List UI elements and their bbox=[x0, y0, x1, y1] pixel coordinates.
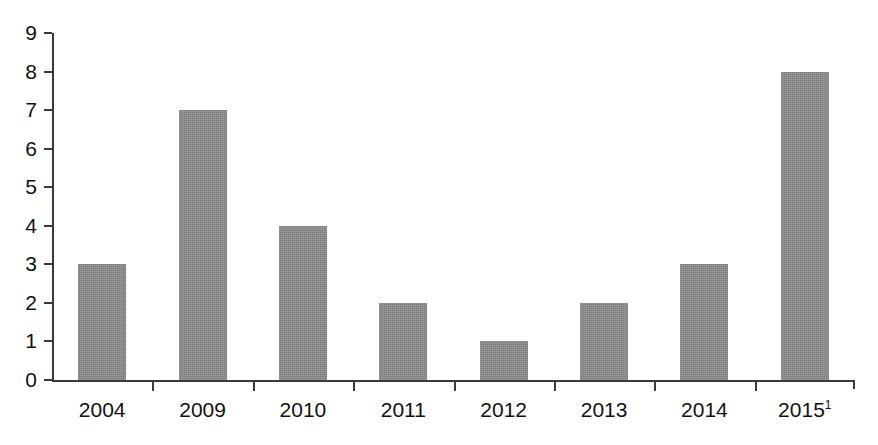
x-axis-tick-mark bbox=[353, 382, 355, 391]
y-axis-tick-label: 9 bbox=[13, 22, 37, 43]
y-axis-line bbox=[52, 33, 54, 381]
y-axis-tick-mark bbox=[44, 225, 52, 227]
y-axis-tick-label: 1 bbox=[13, 330, 37, 351]
y-axis-tick-label: 8 bbox=[13, 61, 37, 82]
x-axis-tick-mark bbox=[253, 382, 255, 391]
bar bbox=[179, 110, 227, 380]
x-axis-tick-label: 2010 bbox=[253, 398, 353, 422]
x-axis-end-tick bbox=[853, 380, 855, 389]
bar bbox=[781, 72, 829, 380]
y-axis-tick-label: 0 bbox=[13, 369, 37, 390]
bar bbox=[379, 303, 427, 380]
y-axis-tick-mark bbox=[44, 71, 52, 73]
x-axis-tick-mark bbox=[152, 382, 154, 391]
y-axis-tick-mark bbox=[44, 148, 52, 150]
plot-area: 0123456789 20042009201020112012201320142… bbox=[0, 0, 878, 445]
x-axis-tick-label: 2014 bbox=[654, 398, 754, 422]
footnote-marker: 1 bbox=[825, 398, 832, 412]
x-axis-tick-mark bbox=[755, 382, 757, 391]
y-axis-tick-label: 5 bbox=[13, 176, 37, 197]
y-axis-tick-mark bbox=[44, 186, 52, 188]
y-axis-tick-mark bbox=[44, 263, 52, 265]
bar bbox=[279, 226, 327, 380]
x-axis-tick-label: 2013 bbox=[554, 398, 654, 422]
y-axis-tick-mark bbox=[44, 302, 52, 304]
x-axis-tick-label: 2012 bbox=[454, 398, 554, 422]
y-axis-tick-label: 2 bbox=[13, 292, 37, 313]
y-axis-tick-mark bbox=[44, 32, 52, 34]
x-axis-tick-label: 20151 bbox=[755, 398, 855, 422]
y-axis-tick-mark bbox=[44, 109, 52, 111]
x-axis-tick-label: 2004 bbox=[52, 398, 152, 422]
y-axis-tick-label: 3 bbox=[13, 253, 37, 274]
x-axis-tick-mark bbox=[554, 382, 556, 391]
y-axis-tick-mark bbox=[44, 340, 52, 342]
y-axis-tick-label: 6 bbox=[13, 138, 37, 159]
y-axis-tick-label: 4 bbox=[13, 215, 37, 236]
x-axis-tick-label: 2011 bbox=[353, 398, 453, 422]
bar bbox=[680, 264, 728, 380]
bar bbox=[480, 341, 528, 380]
y-axis-tick-label: 7 bbox=[13, 99, 37, 120]
bar-chart: 0123456789 20042009201020112012201320142… bbox=[0, 0, 878, 445]
bar bbox=[78, 264, 126, 380]
y-axis-tick-mark bbox=[44, 379, 52, 381]
x-axis-tick-mark bbox=[454, 382, 456, 391]
bar bbox=[580, 303, 628, 380]
x-axis-tick-label: 2009 bbox=[152, 398, 252, 422]
x-axis-tick-mark bbox=[654, 382, 656, 391]
